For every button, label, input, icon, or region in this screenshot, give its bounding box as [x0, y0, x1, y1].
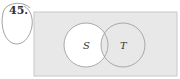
problem-number: 45. — [9, 4, 28, 17]
set-s-label: S — [83, 40, 90, 51]
